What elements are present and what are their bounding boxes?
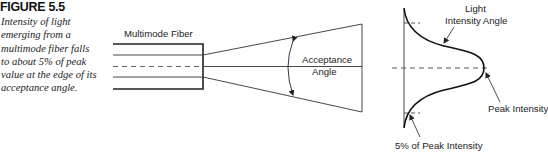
peak-label-arrow bbox=[486, 73, 500, 102]
angle-arc-arrow bbox=[288, 41, 293, 95]
fiber-diagram: Multimode Fiber Acceptance Angle Light I… bbox=[0, 0, 548, 152]
intensity-profile: Light Intensity Angle Peak Intensity 5% … bbox=[392, 3, 548, 151]
intensity-label-2: Intensity Angle bbox=[445, 15, 507, 26]
acceptance-label-2: Angle bbox=[312, 66, 337, 77]
acceptance-cone: Acceptance Angle bbox=[203, 24, 362, 112]
multimode-fiber: Multimode Fiber bbox=[113, 28, 203, 89]
intensity-label-arrow bbox=[444, 27, 454, 43]
fiber-label: Multimode Fiber bbox=[124, 28, 194, 39]
five-percent-label-arrow bbox=[410, 115, 420, 137]
intensity-label-1: Light bbox=[465, 3, 486, 14]
intensity-curve bbox=[404, 8, 484, 128]
peak-label: Peak Intensity bbox=[488, 103, 548, 114]
acceptance-label-1: Acceptance bbox=[302, 54, 352, 65]
five-percent-label: 5% of Peak Intensity bbox=[395, 140, 483, 151]
